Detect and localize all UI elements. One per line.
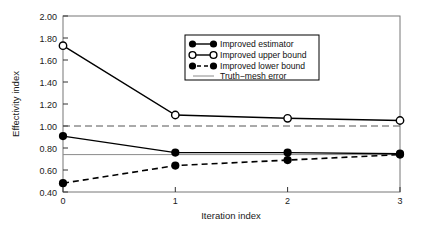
legend-marker [189,52,196,59]
data-point [171,149,179,157]
data-point [284,115,291,122]
chart-figure: 2.00 1.80 1.60 1.40 1.20 1.00 0.80 0.60 … [0,0,423,226]
effectivity-index-line-chart: 2.00 1.80 1.60 1.40 1.20 1.00 0.80 0.60 … [0,0,423,226]
legend-marker [210,40,217,47]
x-tick-label: 2 [285,196,290,206]
legend-label: Improved upper bound [220,50,307,60]
data-point [59,179,67,187]
legend-label: Improved estimator [220,39,294,49]
y-tick-label: 1.60 [39,56,57,66]
data-point [59,132,67,140]
y-tick-labels: 2.00 1.80 1.60 1.40 1.20 1.00 0.80 0.60 … [39,12,57,198]
legend-label: Improved lower bound [220,61,305,71]
data-point [284,156,292,164]
y-axis-label: Effectivity index [10,71,21,137]
x-tick-label: 3 [397,196,402,206]
y-tick-label: 1.20 [39,100,57,110]
y-tick-label: 1.40 [39,78,57,88]
legend-label: Truth−mesh error [220,71,286,81]
data-point [396,117,403,124]
legend-marker [210,52,217,59]
x-tick-label: 1 [173,196,178,206]
data-point [171,162,179,170]
chart-legend: Improved estimator Improved upper bound … [185,35,319,81]
y-tick-label: 0.60 [39,166,57,176]
legend-marker [189,62,196,69]
data-point [59,42,66,49]
x-tick-label: 0 [60,196,65,206]
data-point [172,111,179,118]
data-point [396,151,404,159]
legend-marker [210,62,217,69]
y-tick-label: 0.40 [39,188,57,198]
legend-marker [189,40,196,47]
data-point [284,149,292,157]
x-axis-label: Iteration index [201,210,261,221]
y-tick-label: 1.00 [39,122,57,132]
y-tick-label: 2.00 [39,12,57,22]
y-tick-label: 0.80 [39,144,57,154]
y-tick-label: 1.80 [39,34,57,44]
